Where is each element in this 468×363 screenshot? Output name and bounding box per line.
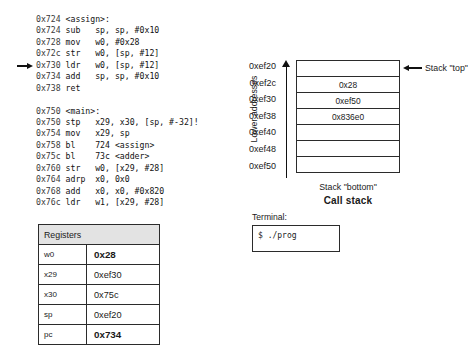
terminal-command-line: $ ./prog bbox=[253, 226, 339, 240]
assembly-instruction: <assign>: bbox=[66, 14, 110, 24]
register-name: pc bbox=[39, 325, 87, 345]
assembly-line: 0x72c str w0, [sp, #12] bbox=[36, 48, 199, 59]
assembly-address: 0x768 bbox=[36, 186, 61, 196]
assembly-line bbox=[36, 94, 199, 105]
assembly-instruction: stp x29, x30, [sp, #-32]! bbox=[66, 117, 199, 127]
registers-header-row: Registers bbox=[39, 225, 160, 245]
assembly-instruction: sub sp, sp, #0x10 bbox=[66, 25, 160, 35]
register-value: 0x75c bbox=[87, 285, 160, 305]
assembly-instruction: add x0, x0, #0x820 bbox=[66, 186, 165, 196]
up-arrow-shaft bbox=[286, 66, 288, 178]
pc-arrow-head bbox=[27, 63, 33, 69]
register-name: x30 bbox=[39, 285, 87, 305]
assembly-address: 0x72c bbox=[36, 48, 61, 58]
assembly-address: 0x724 bbox=[36, 25, 61, 35]
stack-cell bbox=[297, 157, 400, 173]
assembly-line: 0x750 <main>: bbox=[36, 106, 199, 117]
assembly-address: 0x754 bbox=[36, 128, 61, 138]
register-value: 0x734 bbox=[87, 325, 160, 345]
stack-top-annotation: Stack "top" bbox=[403, 60, 468, 77]
terminal-area: Terminal: $ ./prog bbox=[252, 212, 340, 252]
assembly-line: 0x760 str w0, [x29, #28] bbox=[36, 163, 199, 174]
assembly-address: 0x760 bbox=[36, 163, 61, 173]
assembly-address: 0x738 bbox=[36, 83, 61, 93]
stack-row bbox=[297, 125, 400, 141]
register-row: w00x28 bbox=[39, 245, 160, 265]
assembly-line: 0x758 bl 724 <assign> bbox=[36, 140, 199, 151]
left-arrow-shaft bbox=[409, 67, 422, 69]
assembly-instruction: mov x29, sp bbox=[66, 128, 130, 138]
assembly-instruction: mov w0, #0x28 bbox=[66, 37, 140, 47]
assembly-instruction: add sp, sp, #0x10 bbox=[66, 71, 160, 81]
assembly-instruction: bl 73c <adder> bbox=[66, 151, 150, 161]
assembly-instruction: ldr w1, [x29, #28] bbox=[66, 197, 165, 207]
assembly-listing: 0x724 <assign>:0x724 sub sp, sp, #0x100x… bbox=[36, 14, 199, 208]
assembly-line: 0x764 adrp x0, 0x0 bbox=[36, 174, 199, 185]
stack-cell bbox=[297, 141, 400, 157]
registers-title: Registers bbox=[39, 225, 160, 245]
stack-row bbox=[297, 141, 400, 157]
stack-row bbox=[297, 61, 400, 77]
stack-address-label: 0xef2c bbox=[234, 75, 276, 92]
assembly-address: 0x750 bbox=[36, 117, 61, 127]
stack-bottom-label: Stack "bottom" bbox=[296, 182, 400, 192]
register-value: 0xef20 bbox=[87, 305, 160, 325]
assembly-line: 0x730 ldr w0, [sp, #12] bbox=[36, 60, 199, 71]
assembly-address: 0x764 bbox=[36, 174, 61, 184]
registers-body: w00x28x290xef30x300x75csp0xef20pc0x734 bbox=[39, 245, 160, 345]
terminal-window[interactable]: $ ./prog bbox=[252, 225, 340, 252]
stack-cell bbox=[297, 125, 400, 141]
pc-arrow-icon bbox=[17, 63, 34, 69]
stack-cell bbox=[297, 61, 400, 77]
stack-address-label: 0xef30 bbox=[234, 91, 276, 108]
assembly-instruction: str w0, [x29, #28] bbox=[66, 163, 165, 173]
assembly-address: 0x76c bbox=[36, 197, 61, 207]
stack-top-label: Stack "top" bbox=[425, 63, 468, 73]
register-value: 0xef30 bbox=[87, 265, 160, 285]
stack-row: 0xef50 bbox=[297, 93, 400, 109]
assembly-line: 0x754 mov x29, sp bbox=[36, 128, 199, 139]
stack-cell: 0xef50 bbox=[297, 93, 400, 109]
assembly-instruction: <main>: bbox=[66, 106, 101, 116]
register-value: 0x28 bbox=[87, 245, 160, 265]
assembly-line: 0x76c ldr w1, [x29, #28] bbox=[36, 197, 199, 208]
call-stack-caption: Call stack bbox=[284, 195, 412, 206]
register-row: x300x75c bbox=[39, 285, 160, 305]
stack-row: 0x28 bbox=[297, 77, 400, 93]
assembly-line: 0x75c bl 73c <adder> bbox=[36, 151, 199, 162]
stack-address-label: 0xef50 bbox=[234, 158, 276, 175]
assembly-address: 0x758 bbox=[36, 140, 61, 150]
stack-cell: 0x836e0 bbox=[297, 109, 400, 125]
assembly-line: 0x750 stp x29, x30, [sp, #-32]! bbox=[36, 117, 199, 128]
register-row: x290xef30 bbox=[39, 265, 160, 285]
terminal-label: Terminal: bbox=[252, 212, 340, 222]
register-row: pc0x734 bbox=[39, 325, 160, 345]
assembly-address: 0x724 bbox=[36, 14, 61, 24]
assembly-instruction: ret bbox=[66, 83, 81, 93]
assembly-address: 0x734 bbox=[36, 71, 61, 81]
assembly-address: 0x75c bbox=[36, 151, 61, 161]
stack-row: 0x836e0 bbox=[297, 109, 400, 125]
assembly-instruction: bl 724 <assign> bbox=[66, 140, 155, 150]
assembly-address: 0x728 bbox=[36, 37, 61, 47]
left-arrow-icon bbox=[403, 65, 422, 71]
stack-address-label: 0xef38 bbox=[234, 108, 276, 125]
assembly-instruction: adrp x0, 0x0 bbox=[66, 174, 130, 184]
stack-row bbox=[297, 157, 400, 173]
assembly-line: 0x724 <assign>: bbox=[36, 14, 199, 25]
call-stack-diagram: Lower addresses 0xef200xef2c0xef300xef38… bbox=[222, 58, 444, 208]
assembly-address: 0x750 bbox=[36, 106, 61, 116]
register-name: sp bbox=[39, 305, 87, 325]
assembly-line: 0x728 mov w0, #0x28 bbox=[36, 37, 199, 48]
stack-address-label: 0xef48 bbox=[234, 141, 276, 158]
stack-cells-table: 0x280xef500x836e0 bbox=[296, 60, 400, 173]
assembly-instruction: ldr w0, [sp, #12] bbox=[66, 60, 160, 70]
assembly-address: 0x730 bbox=[36, 60, 61, 70]
assembly-line: 0x724 sub sp, sp, #0x10 bbox=[36, 25, 199, 36]
stack-cells-body: 0x280xef500x836e0 bbox=[297, 61, 400, 173]
up-arrow-icon bbox=[282, 60, 291, 178]
assembly-line: 0x768 add x0, x0, #0x820 bbox=[36, 186, 199, 197]
register-name: x29 bbox=[39, 265, 87, 285]
assembly-line: 0x734 add sp, sp, #0x10 bbox=[36, 71, 199, 82]
stack-cell: 0x28 bbox=[297, 77, 400, 93]
